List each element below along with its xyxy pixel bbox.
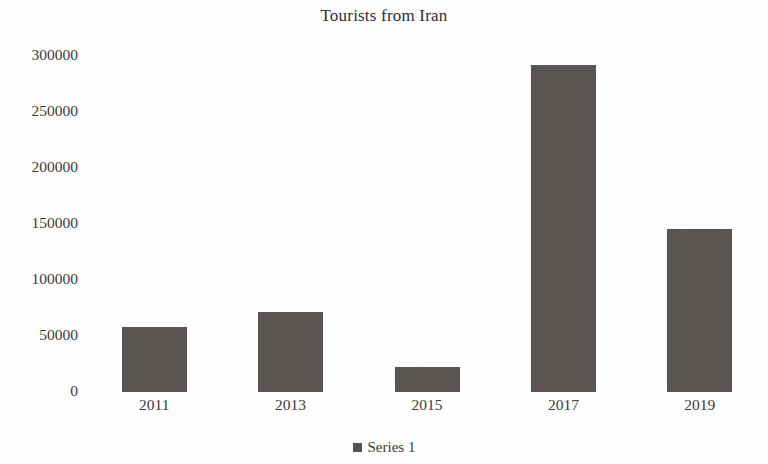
bar — [531, 65, 596, 392]
x-axis-tick-label: 2019 — [684, 396, 715, 415]
square-marker-icon — [353, 443, 362, 452]
legend-item-label: Series 1 — [368, 440, 416, 455]
x-axis-tick-label: 2017 — [548, 396, 579, 415]
x-axis-tick-label: 2011 — [139, 396, 169, 415]
chart-legend: Series 1 — [0, 440, 768, 455]
y-axis-tick-label: 200000 — [0, 159, 78, 175]
bar — [395, 367, 460, 392]
plot-area — [86, 50, 768, 392]
x-axis-tick-label: 2013 — [275, 396, 306, 415]
y-axis-tick-label: 300000 — [0, 47, 78, 63]
y-axis-tick-label: 50000 — [0, 327, 78, 343]
y-axis-tick-label: 250000 — [0, 103, 78, 119]
y-axis-tick-label: 0 — [0, 383, 78, 399]
bar — [667, 229, 732, 392]
y-axis-tick-label: 150000 — [0, 215, 78, 231]
y-axis-tick-label: 100000 — [0, 271, 78, 287]
bar — [258, 312, 323, 392]
y-axis: 300000 250000 200000 150000 100000 50000… — [0, 50, 78, 392]
x-axis: 20112013201520172019 — [86, 396, 768, 422]
bar — [122, 327, 187, 392]
bar-chart: Tourists from Iran 300000 250000 200000 … — [0, 0, 768, 464]
chart-title: Tourists from Iran — [0, 6, 768, 26]
x-axis-tick-label: 2015 — [412, 396, 443, 415]
